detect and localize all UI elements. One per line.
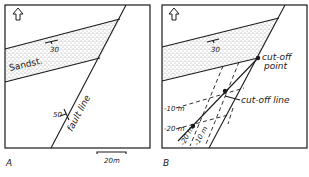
panel-a-label: A bbox=[5, 158, 12, 168]
contour-label-20m: -20 m bbox=[164, 125, 185, 133]
cutoff-intersection-dot bbox=[223, 89, 227, 93]
scale-bar-label: 20m bbox=[104, 157, 120, 165]
cutoff-point-label-2: point bbox=[263, 61, 287, 71]
fault-cutoff-diagram: 30 Sandst. 50 fault line A 20m 30 bbox=[0, 0, 309, 177]
scale-bar bbox=[97, 152, 126, 154]
north-arrow-icon bbox=[13, 8, 23, 20]
bed-dip-value: 30 bbox=[211, 46, 220, 54]
north-arrow-icon bbox=[169, 8, 179, 20]
fault-line bbox=[51, 5, 126, 148]
cutoff-line-label: cut-off line bbox=[241, 95, 290, 105]
panel-b-label: B bbox=[163, 158, 169, 168]
contour-label-10m: -10 m bbox=[164, 105, 185, 113]
panel-b: 30 cut-off point cut-off line -10 m -20 … bbox=[162, 5, 307, 168]
panel-a: 30 Sandst. 50 fault line A 20m bbox=[5, 5, 150, 168]
fault-dip-value: 50 bbox=[53, 111, 62, 119]
cutoff-point-dot bbox=[256, 56, 260, 60]
bed-dip-value: 30 bbox=[50, 46, 59, 54]
fault-contour-label-10m: -10 m bbox=[193, 125, 210, 147]
cutoff-line-leader bbox=[225, 96, 240, 100]
fault-contour-10m bbox=[206, 62, 239, 144]
